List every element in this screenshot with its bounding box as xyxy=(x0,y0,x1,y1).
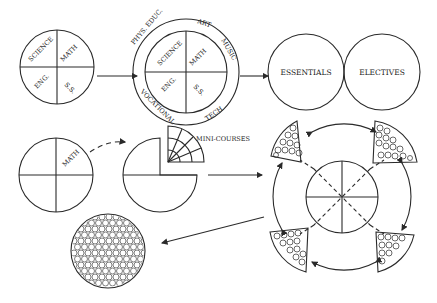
stage2-eng-label: ENG. xyxy=(160,75,178,93)
arrow-6-7 xyxy=(162,217,264,243)
mini-courses-wedge xyxy=(168,126,204,162)
ring-vocational-label: VOCATIONAL xyxy=(138,87,177,126)
stage2-circle xyxy=(133,19,239,125)
essentials-label: ESSENTIALS xyxy=(280,68,331,77)
ring-art-label: ART xyxy=(195,17,212,29)
curriculum-diagram: SCIENCE MATH ENG. S.S. SCIENCE MATH ENG.… xyxy=(0,0,437,303)
stage2-science-label: SCIENCE xyxy=(156,39,185,68)
electives-label: ELECTIVES xyxy=(359,68,405,77)
stage1-eng-label: ENG. xyxy=(33,72,51,90)
stage1-science-label: SCIENCE xyxy=(27,35,56,64)
stage2-math-label: MATH xyxy=(188,47,209,68)
stage2-ss-label: S.S. xyxy=(192,83,207,98)
stage1-ss-label: S.S. xyxy=(63,81,78,96)
ring-music-label: MUSIC xyxy=(219,37,238,62)
wedge-bottom-right xyxy=(376,232,414,272)
wedge-bottom-left xyxy=(270,228,308,272)
stage4-circle xyxy=(19,138,93,212)
stage1-math-label: MATH xyxy=(59,43,80,64)
small-circles xyxy=(274,125,413,265)
dashed-arrow-4-5 xyxy=(90,142,125,152)
stage1-circle xyxy=(20,30,94,104)
mini-courses-label: MINI-COURSES xyxy=(196,135,250,143)
stage4-math-label: MATH xyxy=(61,148,82,169)
stage5-split-circle xyxy=(123,138,197,212)
